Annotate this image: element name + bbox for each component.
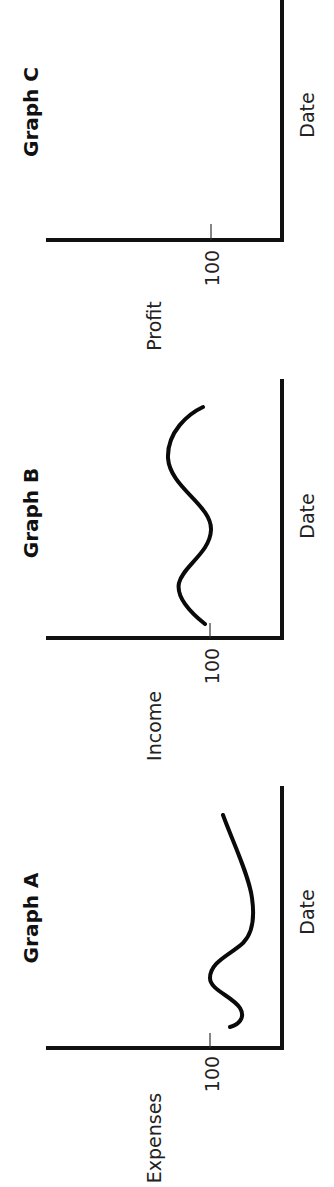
graph-a: Graph A 100 Date Expenses [19,788,318,1183]
graph-a-axes [48,788,282,1048]
graph-b-ylabel: Income [143,691,165,761]
graph-a-title: Graph A [19,872,43,963]
graph-c-axes [48,0,282,240]
graph-a-curve [210,815,253,1027]
graph-b-xlabel: Date [296,493,318,538]
graph-a-xlabel: Date [296,889,318,934]
graph-b-tick-label: 100 [201,648,223,684]
graph-c-ylabel: Profit [143,301,165,351]
graph-b: Graph B 100 Date Income [19,381,318,761]
graphs-canvas: Graph C 100 Date Profit Graph B 100 Date… [0,0,334,1187]
graph-c: Graph C 100 Date Profit [19,0,318,351]
graph-c-tick-label: 100 [201,250,223,286]
graph-a-ylabel: Expenses [143,1093,165,1184]
graph-a-tick-label: 100 [201,1056,223,1092]
graph-b-curve [168,407,211,624]
graph-c-xlabel: Date [296,92,318,137]
graph-b-axes [48,381,282,638]
graph-c-title: Graph C [19,67,43,157]
graph-b-title: Graph B [19,468,43,559]
